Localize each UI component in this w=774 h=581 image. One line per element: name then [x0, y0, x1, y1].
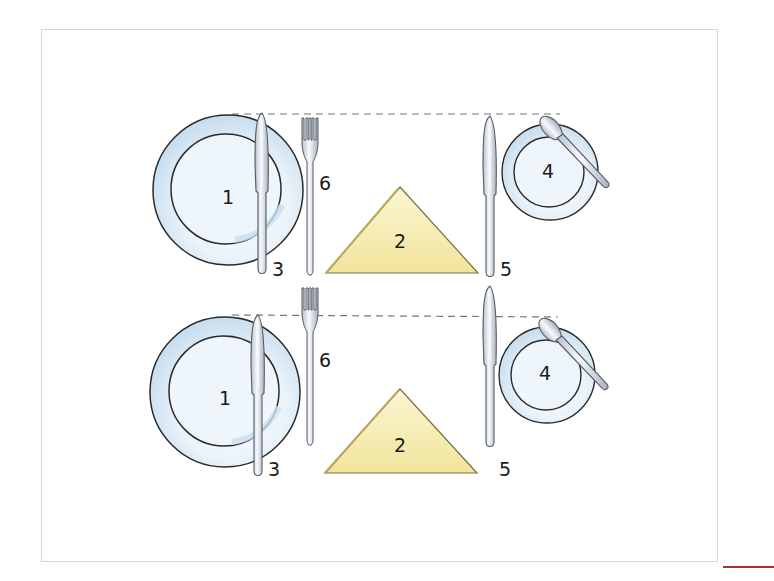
label-plate: 1: [222, 186, 234, 208]
alignment-guide-line: [232, 315, 558, 317]
label-knife-right: 5: [500, 258, 512, 280]
label-knife-right: 5: [499, 458, 511, 480]
label-napkin: 2: [394, 434, 406, 456]
setting-bottom: 1 3 6 2 5 4: [150, 286, 608, 480]
label-side-plate: 4: [539, 362, 551, 384]
label-napkin: 2: [394, 230, 406, 252]
fork: [302, 118, 318, 275]
knife-right: [483, 286, 496, 447]
napkin: [325, 389, 477, 473]
label-knife-left: 3: [272, 258, 284, 280]
label-fork: 6: [319, 349, 331, 371]
label-knife-left: 3: [268, 458, 280, 480]
label-fork: 6: [319, 172, 331, 194]
place-setting-diagram: 1 3 6 2 5 4 1 3 6: [0, 0, 774, 581]
fork: [302, 288, 318, 445]
label-plate: 1: [219, 387, 231, 409]
setting-top: 1 3 6 2 5 4: [153, 112, 609, 280]
label-side-plate: 4: [542, 160, 554, 182]
knife-right: [483, 116, 496, 277]
